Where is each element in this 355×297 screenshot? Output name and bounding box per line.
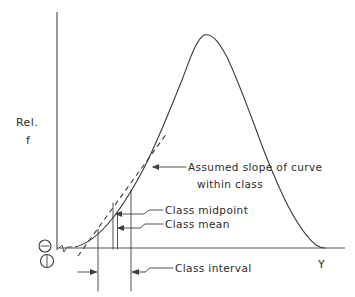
class-midpoint-label: Class midpoint — [165, 204, 248, 216]
class-mean-leader — [117, 224, 163, 231]
assumed-slope-label-line1: Assumed slope of curve — [188, 161, 322, 173]
dashed-tangent-line — [78, 133, 167, 256]
assumed-slope-label-line2: within class — [197, 178, 263, 190]
class-mean-label: Class mean — [165, 218, 230, 230]
class-marker-lines — [98, 190, 131, 291]
y-axis-label-line2: f — [26, 134, 31, 147]
distribution-diagram: Rel. f Y Assumed slope of curve within c… — [0, 0, 355, 297]
x-axis-label: Y — [317, 258, 325, 271]
class-interval-label: Class interval — [175, 262, 252, 274]
origin-marker — [39, 240, 54, 268]
assumed-slope-leader — [152, 164, 186, 170]
figure-container: Rel. f Y Assumed slope of curve within c… — [0, 0, 355, 297]
class-midpoint-leader — [115, 210, 163, 217]
relative-frequency-curve — [75, 35, 325, 248]
y-axis-label-line1: Rel. — [16, 116, 38, 129]
class-interval-span — [78, 268, 173, 275]
